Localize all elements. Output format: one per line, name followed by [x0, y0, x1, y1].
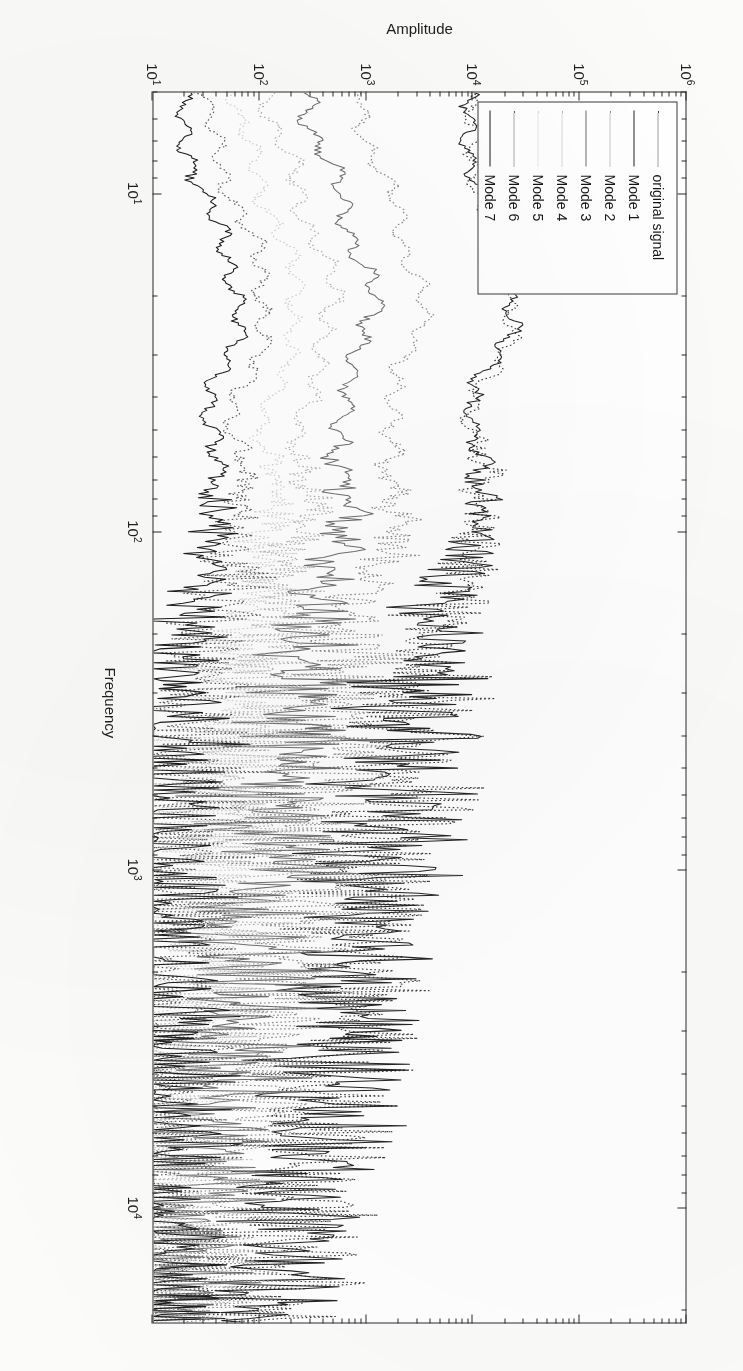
y-tick-label: 105	[570, 47, 588, 85]
x-tick-label: 103	[124, 858, 142, 880]
y-tick-label: 103	[357, 47, 375, 85]
y-axis-title: Amplitude	[386, 20, 453, 37]
y-tick-label: 102	[250, 47, 268, 85]
rotated-figure-wrapper: Frequency Amplitude original signalMode …	[0, 0, 743, 1371]
legend-item-label: Mode 2	[602, 174, 616, 221]
legend-item-mode-3[interactable]: Mode 3	[573, 110, 597, 285]
y-tick-label: 106	[677, 47, 695, 85]
y-tick-label: 101	[143, 47, 161, 85]
legend-item-label: Mode 4	[554, 174, 568, 221]
x-tick-label: 102	[124, 520, 142, 542]
legend-item-label: Mode 3	[578, 174, 592, 221]
spectrum-figure: Frequency Amplitude original signalMode …	[0, 0, 743, 1371]
legend-item-original-signal[interactable]: original signal	[645, 110, 669, 285]
legend-item-label: original signal	[650, 174, 664, 260]
legend-item-mode-6[interactable]: Mode 6	[501, 110, 525, 285]
series-mode-4	[153, 92, 345, 1322]
series-mode-5	[153, 92, 305, 1322]
legend-item-label: Mode 1	[626, 174, 640, 221]
legend-item-mode-2[interactable]: Mode 2	[597, 110, 621, 285]
x-tick-label: 104	[124, 1196, 142, 1218]
legend: original signalMode 1Mode 2Mode 3Mode 4M…	[477, 101, 677, 294]
y-tick-label: 104	[463, 47, 481, 85]
legend-item-mode-1[interactable]: Mode 1	[621, 110, 645, 285]
legend-item-label: Mode 6	[506, 174, 520, 221]
legend-item-label: Mode 7	[482, 174, 496, 221]
x-axis-title: Frequency	[101, 667, 118, 738]
legend-item-mode-4[interactable]: Mode 4	[549, 110, 573, 285]
x-tick-label: 101	[124, 182, 142, 204]
legend-item-label: Mode 5	[530, 174, 544, 221]
legend-item-mode-7[interactable]: Mode 7	[477, 110, 501, 285]
legend-item-mode-5[interactable]: Mode 5	[525, 110, 549, 285]
